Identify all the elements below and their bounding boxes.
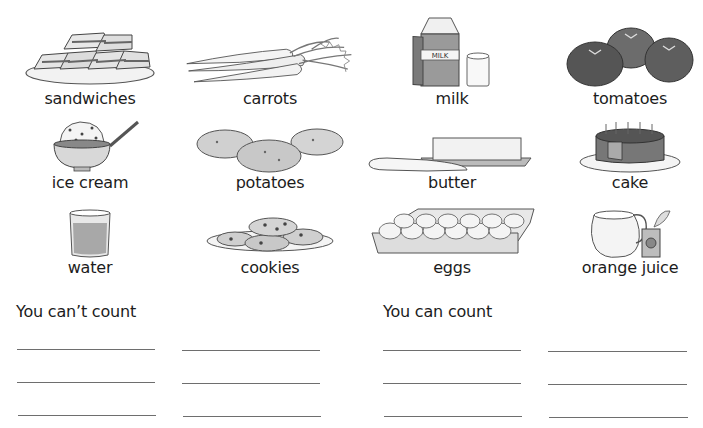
item-carrots: carrots	[185, 0, 355, 110]
item-label: tomatoes	[545, 90, 703, 108]
uncountable-blank-line[interactable]	[183, 416, 321, 417]
tomatoes-icon	[545, 24, 703, 88]
potatoes-icon	[185, 118, 355, 174]
item-label: cake	[545, 174, 703, 192]
butter-icon	[367, 118, 537, 174]
item-label: orange juice	[545, 259, 703, 277]
item-tomatoes: tomatoes	[545, 0, 703, 110]
countable-blank-line[interactable]	[548, 351, 687, 352]
item-cake: cake	[545, 110, 703, 200]
orange-juice-icon	[545, 203, 703, 259]
item-potatoes: potatoes	[185, 110, 355, 200]
item-label: eggs	[367, 259, 537, 277]
uncountable-blank-line[interactable]	[182, 383, 320, 384]
uncountable-blank-line[interactable]	[18, 415, 156, 416]
item-label: water	[5, 259, 175, 277]
uncountable-blank-line[interactable]	[182, 350, 320, 351]
item-orange-juice: orange juice	[545, 195, 703, 285]
countable-blank-line[interactable]	[383, 383, 521, 384]
water-icon	[5, 203, 175, 259]
item-label: butter	[367, 174, 537, 192]
milk-carton-text: MILK	[432, 52, 449, 60]
countable-heading: You can count	[383, 302, 492, 321]
countable-blank-line[interactable]	[549, 417, 688, 418]
carrots-icon	[185, 28, 355, 88]
item-ice-cream: ice cream	[5, 110, 175, 200]
item-label: potatoes	[185, 174, 355, 192]
item-label: milk	[367, 90, 537, 108]
item-cookies: cookies	[185, 195, 355, 285]
ice-cream-icon	[5, 118, 175, 174]
sandwiches-icon	[5, 25, 175, 87]
uncountable-blank-line[interactable]	[17, 349, 155, 350]
milk-icon: MILK	[367, 10, 537, 88]
item-label: ice cream	[5, 174, 175, 192]
item-butter: butter	[367, 110, 537, 200]
item-milk: MILK milk	[367, 0, 537, 110]
eggs-icon	[367, 201, 537, 255]
cake-icon	[545, 114, 703, 174]
item-label: sandwiches	[5, 90, 175, 108]
item-label: cookies	[185, 259, 355, 277]
item-water: water	[5, 195, 175, 285]
uncountable-heading: You can’t count	[16, 302, 136, 321]
cookies-icon	[185, 207, 355, 255]
uncountable-blank-line[interactable]	[17, 382, 155, 383]
item-label: carrots	[185, 90, 355, 108]
item-eggs: eggs	[367, 195, 537, 285]
countable-blank-line[interactable]	[383, 350, 521, 351]
countable-blank-line[interactable]	[384, 416, 522, 417]
countable-blank-line[interactable]	[548, 384, 687, 385]
item-sandwiches: sandwiches	[5, 0, 175, 110]
